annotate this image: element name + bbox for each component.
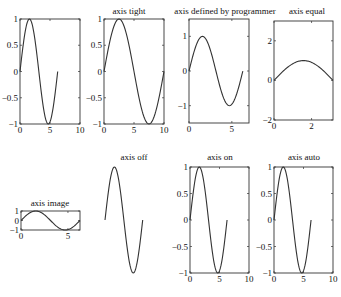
sine-curve: [104, 19, 164, 124]
y-tick-label: 1: [184, 162, 189, 172]
x-tick-label: 10: [245, 274, 255, 284]
y-tick-label: −0.5: [256, 242, 273, 252]
sine-curve: [274, 167, 311, 273]
x-tick-label: 2: [309, 121, 314, 131]
y-tick-label: −2: [262, 115, 272, 125]
y-tick-label: −0.5: [172, 242, 189, 252]
x-tick-label: 5: [66, 231, 71, 241]
plot-axis-on: 0510−1−0.500.51: [172, 162, 254, 284]
plot-default: 0510−1−0.500.51: [2, 14, 85, 135]
y-tick-label: −1: [262, 268, 272, 278]
x-tick-label: 0: [102, 125, 107, 135]
y-tick-label: 0: [183, 66, 188, 76]
x-tick-label: 0: [188, 274, 193, 284]
x-tick-label: 0: [18, 125, 23, 135]
x-tick-label: 0: [187, 124, 192, 134]
x-tick-label: 10: [160, 125, 170, 135]
axes-box: [189, 19, 249, 123]
x-tick-label: 0: [272, 121, 277, 131]
y-tick-label: 1: [14, 14, 19, 24]
x-tick-label: 5: [230, 124, 235, 134]
title-axis-on: axis on: [207, 152, 233, 162]
y-tick-label: −1: [9, 225, 19, 235]
subplot-grid: 0510−1−0.500.510510−1−0.500.5105−10102−2…: [2, 14, 338, 284]
title-axis-defined: axis defined by programmer: [174, 6, 276, 16]
axes-box: [274, 167, 333, 273]
plot-axis-equal: 02−202: [262, 21, 333, 131]
sine-curve: [190, 167, 227, 273]
y-tick-label: 1: [98, 14, 103, 24]
y-tick-label: 0.5: [177, 189, 189, 199]
title-axis-equal: axis equal: [289, 6, 326, 16]
title-axis-image: axis image: [31, 198, 70, 208]
sine-curve: [20, 19, 58, 124]
y-tick-label: 0: [268, 75, 273, 85]
plot-axis-auto: 0510−1−0.500.51: [256, 162, 338, 284]
y-tick-label: −1: [8, 119, 18, 129]
title-axis-auto: axis auto: [288, 152, 321, 162]
x-tick-label: 0: [19, 231, 24, 241]
sine-curve: [105, 167, 143, 273]
axes-box: [190, 167, 249, 273]
x-tick-label: 5: [132, 125, 137, 135]
y-tick-label: 0: [268, 215, 273, 225]
plot-axis-off: [105, 167, 143, 273]
y-tick-label: 0: [98, 67, 103, 77]
x-tick-label: 10: [329, 274, 339, 284]
title-axis-off: axis off: [120, 152, 147, 162]
axes-box: [274, 21, 333, 120]
y-tick-label: 1: [268, 162, 273, 172]
y-tick-label: 0: [14, 67, 19, 77]
y-tick-label: 1: [183, 31, 188, 41]
plot-axis-image: 05−101: [9, 206, 80, 241]
sine-curve: [21, 211, 80, 230]
y-tick-label: −1: [92, 119, 102, 129]
figure: 0510−1−0.500.510510−1−0.500.5105−10102−2…: [0, 0, 341, 297]
x-tick-label: 5: [48, 125, 53, 135]
y-tick-label: 2: [268, 36, 273, 46]
x-tick-label: 10: [76, 125, 86, 135]
title-axis-tight: axis tight: [112, 6, 146, 16]
y-tick-label: −0.5: [2, 93, 19, 103]
plot-axis-defined: 05−101: [177, 19, 249, 134]
y-tick-label: 0.5: [7, 40, 19, 50]
y-tick-label: 0.5: [91, 40, 103, 50]
axes-box: [20, 19, 80, 124]
y-tick-label: 1: [15, 206, 20, 216]
plot-axis-tight: 0510−1−0.500.51: [86, 14, 169, 135]
y-tick-label: −0.5: [86, 93, 103, 103]
y-tick-label: −1: [178, 268, 188, 278]
y-tick-label: 0.5: [261, 189, 273, 199]
y-tick-label: −1: [177, 101, 187, 111]
y-tick-label: 0: [15, 216, 20, 226]
x-tick-label: 5: [217, 274, 222, 284]
sine-curve: [274, 61, 333, 81]
sine-curve: [189, 36, 243, 105]
x-tick-label: 5: [301, 274, 306, 284]
x-tick-label: 0: [272, 274, 277, 284]
y-tick-label: 0: [184, 215, 189, 225]
